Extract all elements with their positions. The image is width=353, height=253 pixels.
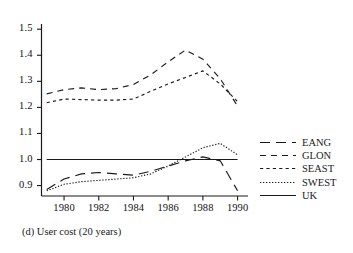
y-tick-label: 1.3 xyxy=(0,74,33,85)
legend-label-eang: EANG xyxy=(297,137,331,148)
series-line-swest xyxy=(47,143,238,190)
data-series-group xyxy=(47,50,238,191)
y-tick-label: 1.5 xyxy=(0,22,33,33)
y-tick-label: 1.4 xyxy=(0,48,33,59)
legend-label-uk: UK xyxy=(297,190,317,201)
legend: EANG GLON SEAST SWEST UK xyxy=(259,136,353,202)
legend-item: SWEST xyxy=(259,176,353,189)
legend-label-glon: GLON xyxy=(297,150,331,161)
legend-label-seast: SEAST xyxy=(297,163,334,174)
legend-item: UK xyxy=(259,189,353,202)
figure-caption: (d) User cost (20 years) xyxy=(22,226,121,237)
y-tick-label: 0.9 xyxy=(0,179,33,190)
legend-item: EANG xyxy=(259,136,353,149)
y-tick-label: 1.0 xyxy=(0,153,33,164)
legend-item: SEAST xyxy=(259,162,353,175)
legend-label-swest: SWEST xyxy=(297,177,336,188)
legend-swatch-eang xyxy=(259,137,297,148)
y-axis-ticks xyxy=(37,29,42,185)
legend-swatch-swest xyxy=(259,177,297,188)
legend-swatch-seast xyxy=(259,163,297,174)
legend-swatch-glon xyxy=(259,150,297,161)
legend-item: GLON xyxy=(259,149,353,162)
x-tick-label: 1990 xyxy=(216,202,260,213)
figure: 0.91.01.11.21.31.41.51980198219841986198… xyxy=(0,0,353,253)
series-line-seast xyxy=(47,71,238,103)
legend-swatch-uk xyxy=(259,190,297,201)
series-line-glon xyxy=(47,50,238,106)
y-tick-label: 1.2 xyxy=(0,100,33,111)
x-axis-ticks xyxy=(64,196,238,201)
y-tick-label: 1.1 xyxy=(0,126,33,137)
series-line-eang xyxy=(47,157,238,191)
chart-canvas xyxy=(0,0,353,253)
axes xyxy=(37,24,248,201)
